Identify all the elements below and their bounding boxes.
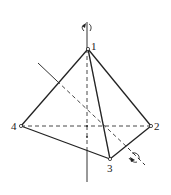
vertex-4 bbox=[19, 124, 22, 127]
edge-4-3 bbox=[21, 126, 110, 159]
vertex-2 bbox=[149, 124, 152, 127]
axis-dot bbox=[86, 125, 88, 127]
vertex-3 bbox=[108, 157, 111, 160]
vertex-label-3: 3 bbox=[107, 162, 113, 174]
vertex-label-2: 2 bbox=[154, 120, 160, 132]
edge-1-3 bbox=[88, 49, 110, 159]
diagonal-axis-hidden bbox=[57, 81, 128, 148]
axis-dot bbox=[86, 136, 88, 138]
edge-1-2 bbox=[88, 49, 151, 126]
vertex-label-1: 1 bbox=[91, 40, 97, 52]
edge-3-2 bbox=[110, 126, 151, 159]
tetrahedron-diagram: 1 2 3 4 bbox=[0, 0, 171, 195]
vertex-1 bbox=[86, 47, 89, 50]
edge-1-4 bbox=[21, 49, 88, 126]
vertex-label-4: 4 bbox=[11, 120, 17, 132]
diagonal-axis-top bbox=[38, 63, 57, 81]
